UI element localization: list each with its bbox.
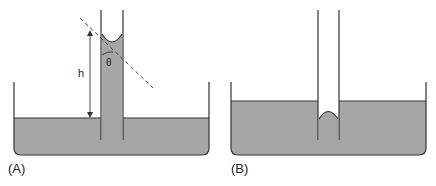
height-label: h: [78, 67, 84, 79]
capillary-diagram: θ h (A) (B): [0, 0, 436, 186]
panel-a: θ h (A): [8, 10, 209, 176]
panel-label-b: (B): [231, 161, 248, 176]
panel-label-a: (A): [8, 161, 25, 176]
theta-label: θ: [106, 57, 112, 68]
panel-b: (B): [231, 10, 426, 176]
tube-liquid-a: [102, 34, 122, 140]
